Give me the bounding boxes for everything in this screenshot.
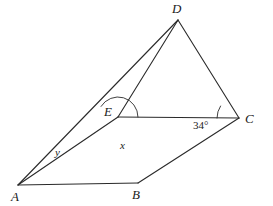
angle-label-34-degrees: 34° [193, 120, 208, 131]
vertex-label-E: E [104, 105, 112, 118]
vertex-label-D: D [172, 2, 181, 15]
angle-label-x: x [120, 140, 125, 151]
segment-DE [118, 20, 178, 117]
geometry-canvas [0, 0, 273, 206]
segment-CD [178, 20, 239, 118]
geometry-figure: A B C D E x y 34° [0, 0, 273, 206]
segment-EA [18, 117, 118, 185]
angle-34-at-C-arc [217, 106, 221, 118]
segment-BC [138, 118, 239, 183]
segment-DA [18, 20, 178, 185]
angle-label-y: y [55, 147, 60, 158]
vertex-label-A: A [11, 190, 19, 203]
vertex-label-C: C [245, 112, 254, 125]
vertex-label-B: B [132, 188, 140, 201]
segments-group [18, 20, 239, 185]
segment-AB [18, 183, 138, 185]
segment-EC [118, 117, 239, 118]
